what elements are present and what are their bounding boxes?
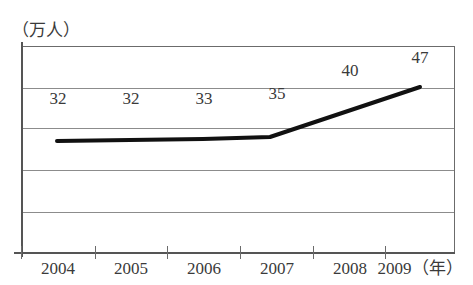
x-axis-label: 2005 — [114, 260, 148, 277]
data-label: 35 — [269, 85, 286, 102]
x-axis-unit-label: （年） — [412, 259, 463, 278]
x-axis-tick — [240, 246, 241, 259]
x-axis-tick — [95, 246, 96, 259]
plot-area — [21, 46, 455, 253]
x-axis-tick — [167, 246, 168, 259]
x-axis-line — [14, 252, 455, 254]
x-axis-label: 2004 — [41, 260, 75, 277]
data-label: 32 — [50, 90, 67, 107]
x-axis-label-text: 2009 — [378, 259, 412, 278]
x-axis-label: 2006 — [187, 260, 221, 277]
data-label: 40 — [342, 62, 359, 79]
x-axis-tick — [21, 246, 22, 259]
x-axis-label: 2007 — [260, 260, 294, 277]
x-axis-label-last: 2009（年） — [378, 260, 463, 277]
data-label: 32 — [123, 90, 140, 107]
y-axis-line — [21, 42, 23, 257]
y-axis-unit-label: （万人） — [12, 16, 80, 41]
x-axis-tick — [385, 246, 386, 259]
line-chart: （万人） 32 32 33 35 40 47 2004 2005 2006 20… — [0, 0, 473, 285]
gridline — [22, 170, 454, 171]
data-label: 47 — [412, 49, 429, 66]
data-label: 33 — [196, 90, 213, 107]
gridline — [22, 212, 454, 213]
x-axis-label: 2008 — [333, 260, 367, 277]
gridline — [22, 128, 454, 129]
gridline — [22, 88, 454, 89]
x-axis-tick — [313, 246, 314, 259]
